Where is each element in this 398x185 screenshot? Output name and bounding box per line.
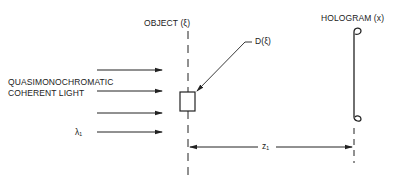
source-label-line2: COHERENT LIGHT: [8, 88, 84, 98]
holography-diagram: OBJECT (ξ) HOLOGRAM (x) QUASIMONOCHROMAT…: [0, 0, 398, 185]
hologram-top-curl: [354, 28, 361, 34]
distance-label: z₁: [262, 141, 269, 151]
hologram-bottom-curl: [354, 116, 361, 121]
hologram-plate: [354, 28, 361, 121]
object-box: [180, 92, 195, 111]
object-label: OBJECT (ξ): [144, 18, 190, 28]
wavelength-label: λ₁: [75, 127, 82, 137]
hologram-label: HOLOGRAM (x): [321, 13, 384, 23]
distribution-leader-arrow: [197, 42, 252, 91]
distribution-label: D(ξ): [255, 36, 271, 46]
source-label-line1: QUASIMONOCHROMATIC: [8, 77, 114, 87]
